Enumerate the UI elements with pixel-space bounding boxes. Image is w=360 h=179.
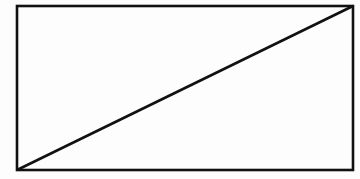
rectangle-with-diagonal-figure [0, 0, 360, 179]
diagonal-line [17, 6, 353, 170]
diagram-canvas [0, 0, 360, 179]
